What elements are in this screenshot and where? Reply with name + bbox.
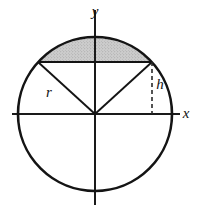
x-axis-label: x bbox=[182, 105, 190, 121]
circle-segment-figure: y x r h bbox=[0, 0, 200, 213]
height-label: h bbox=[156, 76, 164, 92]
y-axis-label: y bbox=[90, 3, 99, 19]
figure-canvas: y x r h bbox=[0, 0, 200, 213]
radius-label: r bbox=[46, 84, 52, 100]
figure-background bbox=[0, 0, 200, 213]
